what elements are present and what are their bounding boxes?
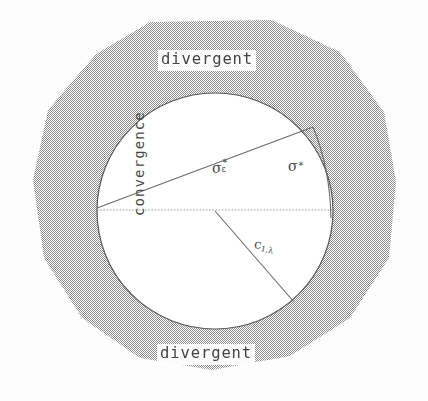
sigma-eps-base: σ [212,160,222,176]
figure-root: divergent divergent convergence σ ∗ ε σ∗… [0,0,428,401]
label-sigma-star: σ∗ [288,158,304,174]
label-divergent-top: divergent [158,50,256,71]
sigma-star-base: σ [288,158,298,174]
label-divergent-bottom: divergent [157,344,255,365]
label-sigma-eps: σ ∗ ε [212,160,222,176]
label-convergence: convergence [131,111,147,216]
sigma-star-superscript: ∗ [298,158,305,169]
sigma-eps-subscript: ε [222,164,226,174]
